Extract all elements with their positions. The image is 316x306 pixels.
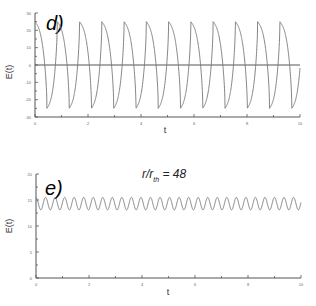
panel-e-chart: e) r/rth = 48 E(t) t 024681005101520 bbox=[4, 167, 304, 297]
y-tick-label: 20 bbox=[28, 172, 33, 177]
x-tick-label: 0 bbox=[35, 282, 38, 287]
x-tick-label: 2 bbox=[88, 282, 91, 287]
y-tick-label: 0 bbox=[29, 63, 32, 68]
y-tick-label: 0 bbox=[30, 276, 33, 281]
y-tick-label: -20 bbox=[25, 97, 32, 102]
y-tick-label: 20 bbox=[27, 28, 32, 33]
panel-e-x-axis-label: t bbox=[167, 287, 170, 297]
panel-d-x-axis-label: t bbox=[164, 125, 167, 135]
panel-e-label: e) bbox=[45, 177, 63, 199]
panel-e-y-axis-label: E(t) bbox=[4, 219, 14, 234]
x-tick-label: 6 bbox=[193, 121, 196, 126]
panel-d-y-axis-label: E(t) bbox=[4, 65, 14, 80]
x-tick-label: 4 bbox=[140, 121, 143, 126]
x-tick-label: 10 bbox=[298, 121, 303, 126]
x-tick-label: 10 bbox=[299, 282, 304, 287]
x-tick-label: 8 bbox=[246, 121, 249, 126]
panel-e-annotation: r/rth = 48 bbox=[142, 167, 187, 183]
x-tick-label: 4 bbox=[141, 282, 144, 287]
y-tick-label: -10 bbox=[25, 80, 32, 85]
series-line-e bbox=[36, 197, 301, 209]
panel-d-label: d) bbox=[46, 12, 64, 34]
y-tick-label: 30 bbox=[27, 11, 32, 16]
panel-d-chart: d) E(t) t 0246810-30-20-100102030 bbox=[4, 11, 303, 136]
y-tick-label: 5 bbox=[30, 250, 33, 255]
annotation-rest: = 48 bbox=[159, 167, 186, 181]
x-tick-label: 0 bbox=[34, 121, 37, 126]
y-tick-label: 10 bbox=[28, 224, 33, 229]
y-tick-label: -30 bbox=[25, 115, 32, 120]
figure: d) E(t) t 0246810-30-20-100102030 e) r/r… bbox=[0, 0, 316, 306]
x-tick-label: 8 bbox=[247, 282, 250, 287]
x-tick-label: 6 bbox=[194, 282, 197, 287]
y-tick-label: 10 bbox=[27, 45, 32, 50]
x-tick-label: 2 bbox=[87, 121, 90, 126]
y-tick-label: 15 bbox=[28, 198, 33, 203]
